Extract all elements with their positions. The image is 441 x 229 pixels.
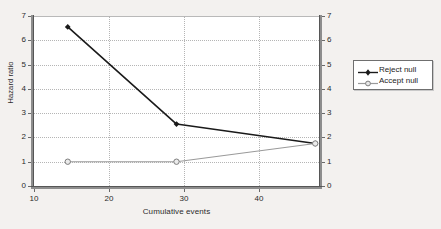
series-line — [68, 144, 316, 162]
legend-label-accept-null: Accept null — [379, 75, 418, 86]
legend-item-reject-null[interactable]: Reject null — [354, 64, 432, 75]
series-reject-null — [65, 24, 318, 146]
legend: Reject null Accept null — [353, 60, 433, 90]
legend-label-reject-null: Reject null — [379, 64, 416, 75]
series-accept-null — [65, 141, 318, 165]
data-point-marker-circle — [313, 141, 318, 146]
series-line — [68, 27, 316, 144]
x-axis-title: Cumulative events — [34, 207, 319, 216]
data-point-marker-circle — [174, 159, 179, 164]
hazard-ratio-chart: 01234567 01234567 10203040 Hazard ratio … — [0, 0, 441, 229]
data-point-marker-circle — [65, 159, 70, 164]
y-axis-title: Hazard ratio — [6, 55, 15, 111]
legend-marker-accept-null — [357, 75, 379, 86]
legend-item-accept-null[interactable]: Accept null — [354, 75, 432, 86]
series-lines — [0, 0, 441, 229]
legend-marker-reject-null — [357, 64, 379, 75]
